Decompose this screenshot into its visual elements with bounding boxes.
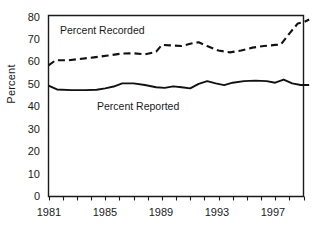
plot-area bbox=[0, 0, 315, 230]
series-line-percent-reported bbox=[49, 80, 310, 91]
chart-container: Percent 80 70 60 50 40 30 20 10 0 1981 1… bbox=[0, 0, 315, 230]
axis-frame bbox=[49, 16, 304, 197]
series-line-percent-recorded bbox=[49, 20, 310, 66]
